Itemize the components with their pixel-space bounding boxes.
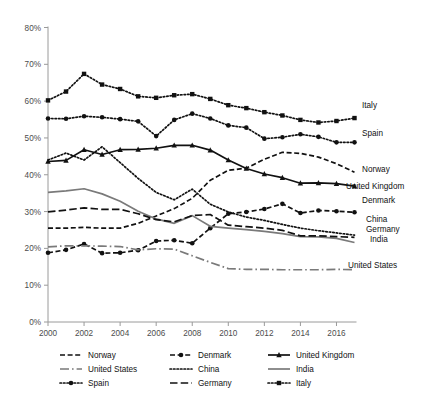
x-tick-label: 2012: [255, 329, 274, 338]
y-tick-label: 60%: [25, 97, 41, 106]
end-label-china: China: [366, 215, 388, 224]
legend-label-china: China: [198, 365, 220, 374]
legend-item-india[interactable]: India: [268, 365, 314, 374]
x-tick-label: 2016: [327, 329, 346, 338]
italy-marker: [82, 72, 86, 76]
series-line: [48, 74, 355, 123]
denmark-marker: [118, 250, 123, 255]
x-tick-label: 2004: [111, 329, 130, 338]
denmark-marker: [100, 251, 105, 256]
series-germany: [48, 208, 355, 237]
italy-marker: [100, 82, 104, 86]
italy-marker: [352, 116, 356, 120]
end-label-united-states: United States: [348, 261, 397, 270]
denmark-marker: [316, 208, 321, 213]
x-tick-label: 2014: [291, 329, 310, 338]
denmark-marker: [352, 210, 357, 215]
chart-canvas: 80%70%60%50%40%30%20%10%0%20002002200420…: [0, 0, 421, 412]
spain-marker: [280, 135, 285, 140]
spain-marker: [100, 115, 105, 120]
legend-label-united-kingdom: United Kingdom: [296, 351, 354, 360]
line-chart: 80%70%60%50%40%30%20%10%0%20002002200420…: [0, 0, 421, 412]
legend-item-germany[interactable]: Germany: [170, 379, 233, 388]
italy-marker: [208, 97, 212, 101]
spain-marker: [118, 117, 123, 122]
y-tick-label: 70%: [25, 60, 41, 69]
denmark-marker: [172, 238, 177, 243]
end-label-denmark: Denmark: [362, 196, 396, 205]
series-line: [48, 208, 355, 237]
series-line: [48, 145, 355, 186]
spain-marker: [82, 114, 87, 119]
y-tick-label: 20%: [25, 244, 41, 253]
spain-marker: [46, 116, 51, 121]
legend-item-norway[interactable]: Norway: [60, 351, 117, 360]
legend-item-united-states[interactable]: United States: [60, 365, 137, 374]
denmark-marker: [190, 241, 195, 246]
spain-marker: [316, 135, 321, 140]
x-tick-label: 2006: [147, 329, 166, 338]
series-line: [48, 152, 355, 228]
series-spain: [46, 111, 357, 144]
denmark-marker: [334, 209, 339, 214]
italy-marker: [280, 113, 284, 117]
x-tick-label: 2010: [219, 329, 238, 338]
y-tick-label: 40%: [25, 171, 41, 180]
denmark-marker: [298, 211, 303, 216]
y-tick-label: 10%: [25, 281, 41, 290]
legend-item-italy[interactable]: Italy: [268, 379, 312, 388]
legend-label-norway: Norway: [88, 351, 117, 360]
legend-item-china[interactable]: China: [170, 365, 220, 374]
series-norway: [48, 152, 355, 228]
end-label-india: India: [370, 235, 388, 244]
legend-item-denmark[interactable]: Denmark: [170, 351, 232, 360]
series-layer: [45, 72, 357, 270]
denmark-marker: [244, 210, 249, 215]
italy-marker: [190, 92, 194, 96]
legend-item-spain[interactable]: Spain: [60, 379, 109, 388]
legend-layer: NorwayDenmarkUnited KingdomUnited States…: [60, 351, 354, 388]
end-label-spain: Spain: [362, 129, 383, 138]
denmark-marker: [280, 202, 285, 207]
italy-marker: [298, 118, 302, 122]
end-label-germany: Germany: [366, 225, 401, 234]
spain-marker: [334, 140, 339, 145]
italy-marker: [118, 87, 122, 91]
italy-marker: [154, 96, 158, 100]
italy-marker: [226, 103, 230, 107]
legend-denmark-marker: [179, 353, 184, 358]
spain-marker: [298, 132, 303, 137]
series-denmark: [46, 202, 357, 256]
end-label-norway: Norway: [362, 165, 391, 174]
spain-marker: [262, 136, 267, 141]
series-united-kingdom: [45, 142, 357, 188]
end-label-united-kingdom: United Kingdom: [346, 182, 404, 191]
legend-label-united-states: United States: [88, 365, 137, 374]
italy-marker: [244, 106, 248, 110]
legend-label-italy: Italy: [296, 379, 312, 388]
denmark-marker: [46, 250, 51, 255]
y-tick-label: 80%: [25, 24, 41, 33]
denmark-marker: [262, 207, 267, 212]
spain-marker: [190, 111, 195, 116]
legend-italy-marker: [277, 381, 281, 385]
italy-marker: [334, 119, 338, 123]
y-tick-label: 30%: [25, 208, 41, 217]
italy-marker: [136, 94, 140, 98]
legend-label-india: India: [296, 365, 314, 374]
spain-marker: [172, 118, 177, 123]
x-tick-label: 2000: [39, 329, 58, 338]
end-label-italy: Italy: [362, 101, 378, 110]
x-tick-label: 2008: [183, 329, 202, 338]
spain-marker: [352, 140, 357, 145]
legend-label-denmark: Denmark: [198, 351, 232, 360]
legend-item-united-kingdom[interactable]: United Kingdom: [268, 351, 354, 360]
denmark-marker: [64, 248, 69, 253]
legend-spain-marker: [69, 381, 74, 386]
spain-marker: [136, 119, 141, 124]
italy-marker: [316, 120, 320, 124]
end-label-layer: ItalySpainNorwayUnited KingdomDenmarkChi…: [346, 101, 404, 270]
spain-marker: [208, 116, 213, 121]
x-tick-label: 2002: [75, 329, 94, 338]
y-tick-label: 50%: [25, 134, 41, 143]
